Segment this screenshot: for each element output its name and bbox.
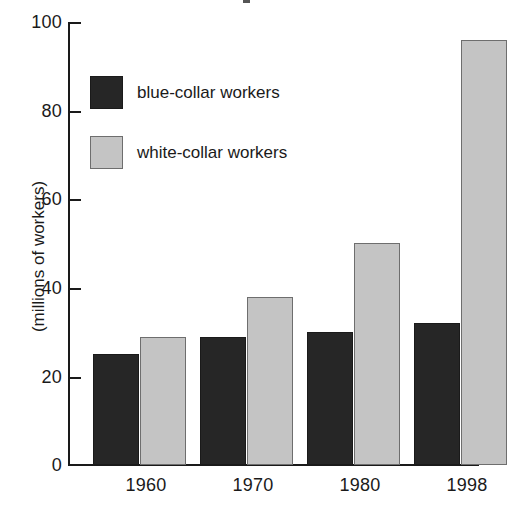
y-axis-tick-label: 0 — [4, 456, 62, 474]
bar-blue-collar-1998 — [414, 323, 460, 465]
cropped-title-remnant — [243, 0, 250, 3]
x-axis-tick-label-1998: 1998 — [417, 476, 511, 494]
x-axis-tick-label-1970: 1970 — [203, 476, 303, 494]
y-axis-tick-label: 80 — [4, 102, 62, 120]
y-axis-label: (millions of workers) — [30, 162, 47, 352]
legend-label-blue-collar: blue-collar workers — [137, 84, 280, 102]
bar-white-collar-1960 — [140, 337, 186, 465]
bar-blue-collar-1960 — [93, 354, 139, 465]
x-axis-tick-label-1960: 1960 — [96, 476, 196, 494]
bar-white-collar-1998 — [461, 40, 507, 465]
bar-blue-collar-1970 — [200, 337, 246, 465]
bar-white-collar-1970 — [247, 297, 293, 465]
x-axis-tick-label-1980: 1980 — [310, 476, 410, 494]
bar-blue-collar-1980 — [307, 332, 353, 465]
legend-swatch-blue-collar — [90, 76, 123, 109]
legend-label-white-collar: white-collar workers — [137, 144, 287, 162]
y-axis-tick-label: 100 — [4, 13, 62, 31]
bar-white-collar-1980 — [354, 243, 400, 465]
y-axis-tick-label: 20 — [4, 368, 62, 386]
legend-swatch-white-collar — [90, 136, 123, 169]
